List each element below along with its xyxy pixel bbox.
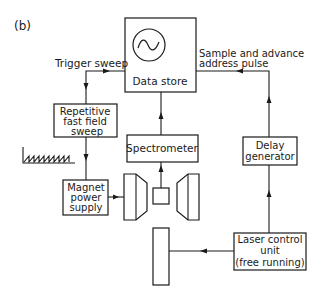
sample-cell-icon — [153, 188, 169, 204]
sawtooth-waveform-icon — [23, 147, 75, 163]
repetitive-sweep-line3: sweep — [71, 126, 103, 137]
sweep-to-magnet-connection — [84, 137, 89, 180]
sample-advance-connection: Sample and advance address pulse — [196, 48, 304, 137]
laser-line3: (free running) — [235, 257, 304, 268]
magnet-line3: supply — [70, 202, 103, 213]
panel-label: (b) — [14, 19, 31, 33]
sample-advance-label-line2: address pulse — [199, 58, 268, 69]
laser-control-unit-block: Laser control unit (free running) — [234, 233, 306, 270]
data-store-block: Data store — [125, 18, 196, 92]
spectrometer-block: Spectrometer — [126, 135, 198, 162]
data-store-label: Data store — [133, 75, 188, 87]
spectrometer-label: Spectrometer — [126, 142, 198, 154]
spectrometer-to-datastore-connection — [159, 92, 164, 135]
delay-line2: generator — [245, 151, 295, 162]
laser-cell-icon — [153, 228, 169, 285]
laser-to-delay-connection — [267, 165, 272, 233]
laser-to-cell-connection — [169, 249, 234, 254]
sample-to-spectrometer-connection — [159, 162, 164, 188]
repetitive-sweep-block: Repetitive fast field sweep — [54, 104, 117, 137]
magnet-to-pole-connection — [108, 195, 124, 200]
delay-generator-block: Delay generator — [243, 137, 297, 165]
laser-line1: Laser control — [237, 234, 302, 245]
block-diagram: (b) Data store Trigger sweep Repetitive … — [0, 0, 322, 289]
right-magnet-pole-icon — [177, 174, 199, 220]
trigger-sweep-label: Trigger sweep — [54, 57, 129, 69]
delay-line1: Delay — [256, 140, 285, 151]
left-magnet-pole-icon — [124, 174, 147, 220]
laser-line2: unit — [260, 245, 279, 256]
magnet-power-supply-block: Magnet power supply — [63, 180, 108, 215]
trigger-sweep-connection: Trigger sweep — [54, 57, 129, 104]
